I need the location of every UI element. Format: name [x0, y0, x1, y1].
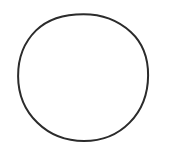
circle-figure-svg	[0, 0, 169, 147]
background-rect	[0, 0, 169, 147]
figure-canvas	[0, 0, 169, 147]
